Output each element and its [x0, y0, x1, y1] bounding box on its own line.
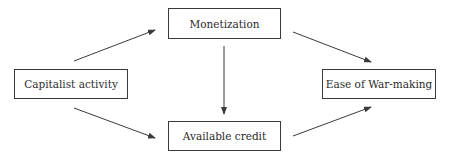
node-capitalist-activity: Capitalist activity [14, 69, 128, 99]
arrow-credit-to-war [293, 107, 371, 136]
arrow-capitalist-to-credit [74, 108, 155, 138]
node-monetization: Monetization [168, 8, 281, 39]
node-label: Ease of War-making [326, 78, 433, 90]
node-available-credit: Available credit [168, 121, 281, 151]
node-label: Available credit [183, 130, 266, 142]
node-ease-of-war-making: Ease of War-making [322, 69, 436, 99]
node-label: Capitalist activity [24, 78, 118, 90]
flow-diagram: Capitalist activity Monetization Availab… [0, 0, 450, 162]
arrow-capitalist-to-monetization [74, 30, 155, 61]
node-label: Monetization [189, 18, 259, 30]
arrow-monetization-to-war [293, 32, 371, 62]
